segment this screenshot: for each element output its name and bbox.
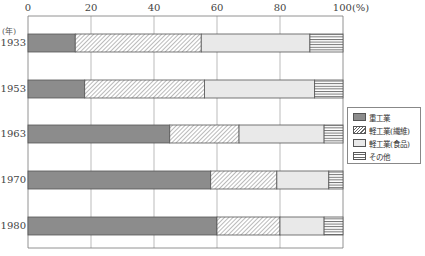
textile-industry-swatch-icon	[353, 126, 366, 134]
segment-heavy-industry	[28, 171, 211, 189]
legend-item-other: その他	[353, 151, 390, 161]
legend-label: 重工業	[369, 112, 390, 123]
bar-1963	[28, 125, 343, 143]
segment-food-industry	[201, 34, 310, 52]
bar-1970	[28, 171, 343, 189]
segment-food-industry	[280, 217, 324, 235]
segment-other-industry	[329, 171, 343, 189]
segment-food-industry	[239, 125, 324, 143]
bar-1980	[28, 217, 343, 235]
x-tick-label: 40	[148, 2, 161, 13]
segment-textile-industry	[170, 125, 239, 143]
segment-other-industry	[324, 125, 343, 143]
legend-item-food: 軽工業(食品)	[353, 138, 410, 148]
segment-textile-industry	[85, 80, 205, 98]
legend: 重工業 軽工業(繊維) 軽工業(食品) その他	[347, 107, 421, 164]
heavy-industry-swatch-icon	[353, 113, 366, 121]
legend-item-textile: 軽工業(繊維)	[353, 125, 410, 135]
y-tick-label: 1970	[0, 174, 26, 185]
year-unit-label: (年)	[2, 25, 16, 36]
legend-label: その他	[369, 151, 390, 162]
x-tick-label: 0	[25, 2, 31, 13]
other-industry-swatch-icon	[353, 152, 366, 160]
bar-1953	[28, 80, 343, 98]
segment-heavy-industry	[28, 80, 85, 98]
segment-food-industry	[204, 80, 314, 98]
x-tick-label: 80	[274, 2, 287, 13]
segment-food-industry	[277, 171, 329, 189]
segment-heavy-industry	[28, 34, 75, 52]
y-tick-label: 1980	[0, 220, 26, 231]
segment-other-industry	[310, 34, 343, 52]
legend-item-heavy: 重工業	[353, 112, 390, 122]
segment-other-industry	[324, 217, 343, 235]
segment-other-industry	[315, 80, 343, 98]
x-tick-label: 60	[211, 2, 224, 13]
y-tick-label: 1953	[0, 83, 26, 94]
segment-textile-industry	[211, 171, 277, 189]
segment-heavy-industry	[28, 217, 217, 235]
bar-1933	[28, 34, 343, 52]
legend-label: 軽工業(繊維)	[369, 125, 410, 136]
legend-label: 軽工業(食品)	[369, 138, 410, 149]
x-tick-label: 20	[85, 2, 98, 13]
segment-textile-industry	[75, 34, 201, 52]
segment-heavy-industry	[28, 125, 170, 143]
y-tick-label: 1963	[0, 128, 26, 139]
x-tick-label: 100(%)	[333, 2, 369, 13]
y-tick-label: 1933	[0, 37, 26, 48]
food-industry-swatch-icon	[353, 139, 366, 147]
bars	[28, 34, 343, 235]
segment-textile-industry	[217, 217, 280, 235]
stacked-bar-chart: 020406080100(%) (年) 19331953196319701980…	[0, 0, 425, 256]
